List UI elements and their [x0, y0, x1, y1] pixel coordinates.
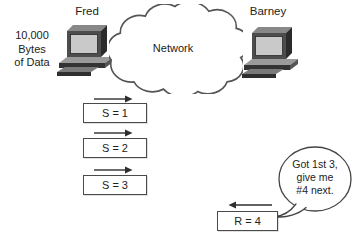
network-cloud-label: Network [110, 42, 236, 54]
data-size-caption: 10,000 Bytes of Data [4, 29, 60, 70]
speech-line: #4 next. [281, 184, 349, 197]
ack-box: R = 4 [217, 211, 278, 231]
arrow-right-icon [93, 128, 133, 138]
segment-box-1: S = 1 [83, 103, 147, 123]
caption-line: of Data [4, 56, 60, 70]
arrow-left-icon [227, 200, 273, 210]
caption-line: Bytes [4, 43, 60, 57]
caption-line: 10,000 [4, 29, 60, 43]
speech-line: give me [281, 171, 349, 184]
speech-line: Got 1st 3, [281, 158, 349, 171]
sender-host-label: Fred [57, 5, 117, 17]
arrow-right-icon [93, 165, 133, 175]
speech-bubble-text: Got 1st 3, give me #4 next. [281, 158, 349, 197]
receiver-host-label: Barney [238, 5, 298, 17]
segment-box-3: S = 3 [83, 175, 147, 195]
tcp-windowing-diagram: 10,000 Bytes of Data Fred Network Barney [0, 0, 355, 239]
computer-icon-fred [57, 23, 115, 77]
computer-icon-barney [242, 25, 300, 79]
segment-box-2: S = 2 [83, 138, 147, 158]
